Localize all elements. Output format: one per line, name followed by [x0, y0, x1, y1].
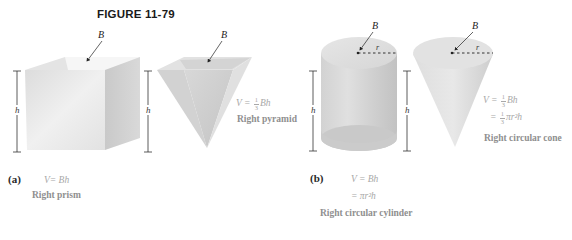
prism-name: Right prism: [32, 190, 81, 200]
part-a-label: (a): [8, 173, 21, 185]
pyramid-name: Right pyramid: [237, 114, 297, 124]
right-circular-cone-shape: r B: [413, 20, 493, 147]
formula-prefix: =: [490, 112, 496, 122]
fraction-one-third: 13: [500, 111, 505, 125]
prism-base-label: B: [98, 29, 104, 40]
part-b-label: (b): [310, 172, 323, 184]
svg-text:h: h: [311, 105, 316, 115]
pyramid-height-label: h: [146, 105, 151, 115]
formula-prefix: V =: [236, 98, 250, 108]
cylinder-volume-formula-line1: V = Bh: [351, 174, 378, 184]
pyramid-volume-formula: V = 13Bh: [236, 97, 271, 111]
right-prism-shape: h B: [13, 29, 140, 152]
fraction-one-third: 13: [501, 94, 506, 108]
formula-prefix: V =: [483, 95, 497, 105]
right-circular-cylinder-shape: r B h h: [309, 20, 411, 151]
formula-suffix: Bh: [507, 95, 518, 105]
pyramid-base-label: B: [221, 29, 227, 40]
formula-suffix: πr²h: [506, 112, 522, 122]
cylinder-volume-formula-line2: = πr²h: [351, 191, 376, 201]
fraction-one-third: 13: [254, 97, 259, 111]
prism-height-label: h: [15, 105, 20, 115]
svg-text:h: h: [405, 105, 410, 115]
cylinder-base-label: B: [372, 20, 378, 31]
cylinder-name: Right circular cylinder: [320, 208, 413, 218]
cone-name: Right circular cone: [484, 133, 562, 143]
cone-base-label: B: [472, 20, 478, 31]
cone-volume-formula-line2: = 13πr²h: [490, 111, 522, 125]
right-pyramid-shape: h B: [144, 29, 252, 152]
formula-suffix: Bh: [260, 98, 271, 108]
cone-volume-formula-line1: V = 13Bh: [483, 94, 518, 108]
prism-volume-formula: V= Bh: [44, 175, 69, 185]
